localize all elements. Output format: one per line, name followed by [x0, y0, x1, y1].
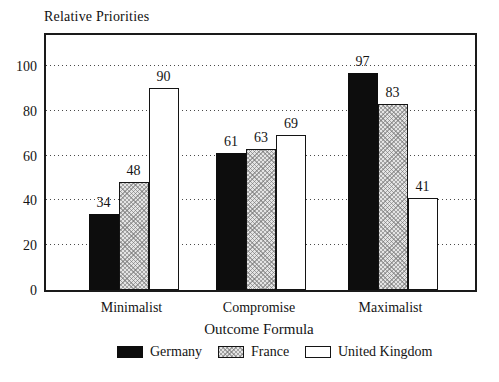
bar-france-minimalist	[119, 182, 149, 290]
gridline-80	[46, 110, 475, 111]
y-tick-label-60: 60	[0, 149, 37, 165]
y-tick-label-80: 80	[0, 104, 37, 120]
legend-swatch-germany	[117, 346, 143, 358]
bar-germany-minimalist	[89, 214, 119, 290]
plot-area: 344890616369978341	[44, 33, 477, 292]
bar-chart-figure: Relative Priorities 344890616369978341 0…	[0, 0, 499, 382]
chart-title: Relative Priorities	[44, 9, 149, 25]
bar-value-label-united-kingdom-maximalist: 41	[398, 180, 448, 194]
legend-label-united-kingdom: United Kingdom	[338, 344, 433, 360]
bar-united-kingdom-maximalist	[408, 198, 438, 290]
bar-value-label-france-maximalist: 83	[368, 86, 418, 100]
category-label-maximalist: Maximalist	[326, 300, 456, 316]
bar-united-kingdom-minimalist	[149, 88, 179, 290]
y-tick-label-40: 40	[0, 193, 37, 209]
legend-swatch-france	[218, 346, 244, 358]
bar-germany-maximalist	[348, 73, 378, 290]
legend-label-france: France	[251, 344, 289, 360]
bar-germany-compromise	[216, 153, 246, 290]
y-tick-label-20: 20	[0, 238, 37, 254]
category-label-compromise: Compromise	[194, 300, 324, 316]
bar-value-label-united-kingdom-minimalist: 90	[139, 70, 189, 84]
bar-value-label-united-kingdom-compromise: 69	[266, 117, 316, 131]
legend-label-germany: Germany	[150, 344, 202, 360]
y-tick-label-100: 100	[0, 59, 37, 75]
bar-france-maximalist	[378, 104, 408, 290]
x-axis-title: Outcome Formula	[179, 321, 339, 338]
legend-swatch-united-kingdom	[305, 346, 331, 358]
gridline-100	[46, 65, 475, 66]
category-label-minimalist: Minimalist	[67, 300, 197, 316]
bar-france-compromise	[246, 149, 276, 290]
y-tick-label-0: 0	[0, 283, 37, 299]
bar-value-label-germany-maximalist: 97	[338, 55, 388, 69]
bar-united-kingdom-compromise	[276, 135, 306, 290]
